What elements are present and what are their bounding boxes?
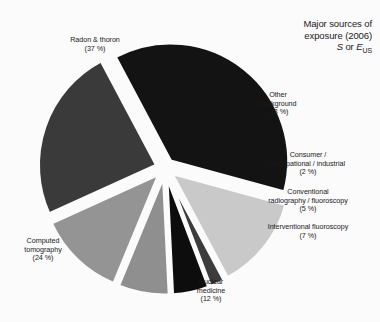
slice-label-consumer-line-3: (2 %) [246,168,370,177]
chart-title: Major sources of exposure (2006) S or EU… [303,18,372,56]
slice-label-consumer: Consumer / occupational / industrial (2 … [246,151,370,177]
slice-label-nuclear-medicine: Nuclear medicine (12 %) [178,278,244,304]
slice-label-other-background-line-3: (13 %) [246,108,310,117]
slice-label-other-background: Other background (13 %) [246,91,310,117]
slice-label-conventional: Conventional radiography / fluoroscopy (… [243,188,373,214]
slice-label-conventional-line-3: (5 %) [243,205,373,214]
pie-chart-figure: Major sources of exposure (2006) S or EU… [0,0,380,322]
slice-label-computed-tomography: Computed tomography (24 %) [5,237,81,263]
slice-label-radon: Radon & thoron (37 %) [36,36,154,53]
symbol-e-subscript: US [362,47,372,54]
slice-label-nuclear-medicine-line-3: (12 %) [178,295,244,304]
slice-label-ct-line-3: (24 %) [5,254,81,263]
chart-title-line-1: Major sources of [303,18,372,30]
slice-label-radon-line-2: (37 %) [36,45,154,54]
slice-label-interventional-line-2: (7 %) [243,232,373,241]
slice-label-interventional: Interventional fluoroscopy (7 %) [243,223,373,240]
chart-title-line-2: exposure (2006) [303,30,372,42]
symbol-or: or [343,41,356,52]
symbol-e: EUS [356,41,372,52]
chart-title-symbol: S or EUS [303,41,372,56]
